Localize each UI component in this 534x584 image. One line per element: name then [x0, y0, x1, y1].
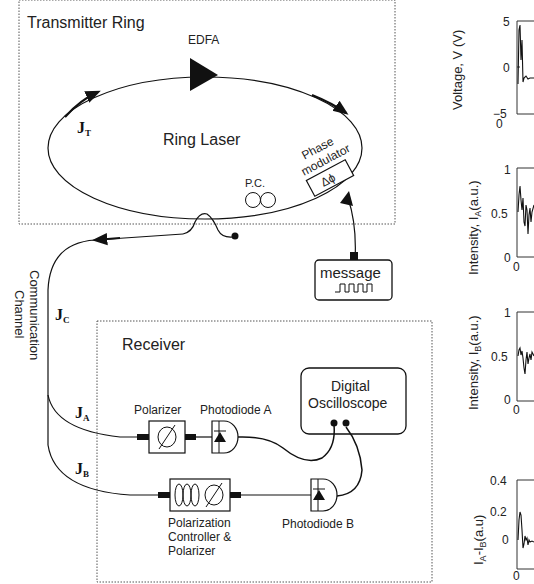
message-drive-line [348, 198, 355, 260]
plot-intensity-a: Intensity, IA(a.u.) 1 0.5 0 0 [466, 163, 534, 275]
oscilloscope-label-2: Oscilloscope [308, 395, 388, 411]
edfa-amplifier-icon [190, 58, 218, 91]
svg-text:0: 0 [504, 393, 511, 407]
svg-text:Intensity, IB(a.u.): Intensity, IB(a.u.) [466, 315, 483, 410]
polarizer-label: Polarizer [134, 403, 181, 417]
pc-loop-icon-2 [261, 193, 276, 208]
drive-arrow-icon [340, 191, 353, 206]
edfa-label: EDFA [188, 33, 219, 47]
plot-difference: IA-IB(a.u) 0.4 0.2 0 0 [471, 474, 534, 583]
photodiode-b-label: Photodiode B [282, 517, 354, 531]
transmitter-title: Transmitter Ring [27, 14, 145, 31]
receiver-box [97, 321, 432, 582]
cable-pd-b [337, 427, 362, 496]
svg-text:1: 1 [504, 163, 511, 177]
svg-text:0: 0 [513, 569, 520, 583]
svg-text:0: 0 [504, 251, 511, 265]
pcp-label-3: Polarizer [168, 544, 215, 558]
svg-text:0: 0 [496, 117, 503, 131]
fiber-termination-dot [232, 233, 239, 240]
svg-text:0: 0 [503, 61, 510, 75]
fiber-ja [48, 395, 137, 437]
svg-text:IA-IB(a.u): IA-IB(a.u) [471, 515, 488, 565]
message-label: message [320, 264, 381, 281]
photodiode-a-label: Photodiode A [200, 403, 271, 417]
svg-text:0: 0 [502, 533, 509, 547]
pcp-connector-in [158, 492, 170, 498]
photodiode-b-icon [311, 479, 337, 511]
polarizer-connector-in [137, 434, 149, 440]
jb-label: JB [75, 460, 89, 479]
receiver-title: Receiver [122, 336, 186, 353]
plot-intensity-b: Intensity, IB(a.u.) 1 0.5 0 0 [466, 306, 534, 417]
svg-text:1: 1 [504, 306, 511, 320]
svg-text:0.2: 0.2 [490, 505, 507, 519]
jc-label: JC [55, 306, 70, 325]
scope-input-b [343, 420, 350, 427]
svg-text:0.5: 0.5 [491, 207, 508, 221]
svg-text:0: 0 [513, 403, 520, 417]
photodiode-a-icon [212, 421, 238, 453]
oscilloscope-label-1: Digital [331, 378, 370, 394]
svg-text:0.4: 0.4 [490, 474, 507, 488]
svg-text:Voltage, V (V): Voltage, V (V) [450, 30, 465, 110]
ja-label: JA [75, 404, 90, 423]
diagram-canvas: Transmitter Ring Ring Laser EDFA JT P.C.… [0, 0, 534, 584]
pcp-connector-out [230, 492, 241, 498]
pc-label: P.C. [245, 177, 265, 189]
pcp-label-2: Controller & [168, 530, 231, 544]
polarizer-connector-out [185, 434, 196, 440]
svg-text:0.5: 0.5 [491, 350, 508, 364]
channel-label-1: Communication [27, 270, 42, 360]
jt-label: JT [77, 119, 91, 138]
pc-loop-icon-1 [246, 193, 261, 208]
channel-label-2: Channel [12, 290, 27, 339]
ring-laser-label: Ring Laser [163, 131, 241, 148]
channel-arrow [95, 238, 120, 240]
svg-text:Intensity, IA(a.u.): Intensity, IA(a.u.) [466, 180, 483, 275]
svg-text:0: 0 [513, 260, 520, 274]
pcp-label-1: Polarization [168, 516, 231, 530]
plot-voltage: Voltage, V (V) 5 0 −5 0 [450, 15, 534, 131]
coupler-fiber [183, 214, 233, 237]
svg-text:5: 5 [503, 15, 510, 29]
